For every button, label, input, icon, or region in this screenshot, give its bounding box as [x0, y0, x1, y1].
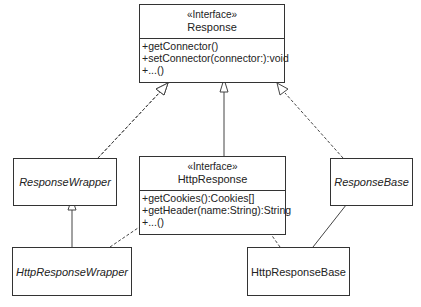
- class-http-response-wrapper[interactable]: HttpResponseWrapper: [12, 247, 132, 296]
- class-name: HttpResponse: [140, 173, 285, 186]
- operation: +getConnector(): [142, 40, 283, 52]
- class-name: Response: [140, 21, 284, 34]
- realization-line: [285, 93, 343, 158]
- class-header: «Interface» HttpResponse: [140, 157, 285, 186]
- operation: +...(): [142, 216, 284, 228]
- operations-compartment: +getCookies():Cookies[] +getHeader(name:…: [140, 190, 285, 230]
- class-name: HttpResponseBase: [251, 266, 346, 278]
- class-name: ResponseWrapper: [19, 176, 111, 188]
- class-response-base[interactable]: ResponseBase: [330, 158, 413, 206]
- class-name: HttpResponseWrapper: [16, 266, 128, 278]
- class-response-wrapper[interactable]: ResponseWrapper: [13, 158, 117, 206]
- class-name: ResponseBase: [334, 176, 409, 188]
- operation: +getHeader(name:String):String: [142, 204, 284, 216]
- stereotype-label: «Interface»: [140, 160, 285, 173]
- stereotype-label: «Interface»: [140, 8, 284, 21]
- operation: +setConnector(connector:):void: [142, 52, 283, 64]
- operations-compartment: +getConnector() +setConnector(connector:…: [140, 38, 284, 78]
- class-response[interactable]: «Interface» Response +getConnector() +se…: [139, 4, 285, 83]
- class-http-response[interactable]: «Interface» HttpResponse +getCookies():C…: [139, 156, 286, 235]
- class-header: «Interface» Response: [140, 5, 284, 34]
- operation: +...(): [142, 64, 283, 76]
- generalization-line: [313, 200, 350, 247]
- class-http-response-base[interactable]: HttpResponseBase: [247, 247, 350, 296]
- operation: +getCookies():Cookies[]: [142, 192, 284, 204]
- hollow-arrowhead-icon: [277, 83, 288, 95]
